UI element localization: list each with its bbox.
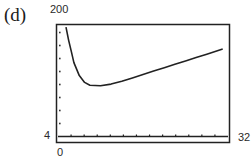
plot-area [0,0,252,160]
y-axis-ticks [59,32,61,125]
data-curve [66,27,223,86]
plot-frame [57,25,230,143]
